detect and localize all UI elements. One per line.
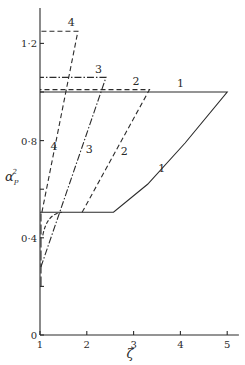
- series-4-label: 4: [51, 140, 58, 153]
- labels-group: 11223344: [51, 16, 184, 175]
- y-axis-title-subscript: P: [13, 179, 19, 187]
- series-4-curve: [43, 212, 62, 235]
- y-axis-title-superscript: 2: [12, 168, 18, 176]
- series-1-label: 1: [158, 162, 165, 175]
- y-tick-label: 0: [31, 330, 37, 341]
- chart: 1234500·40·81·2 11223344 ζ αP2: [0, 0, 245, 365]
- axes: 1234500·40·81·2: [21, 8, 239, 350]
- x-tick-label: 5: [224, 339, 230, 350]
- series-3-label: 3: [95, 63, 102, 76]
- y-tick-label: 0·8: [21, 136, 37, 147]
- series-1-label: 1: [177, 77, 184, 90]
- series-4-line: [40, 31, 78, 212]
- series-1-line: [40, 92, 227, 212]
- series-2-label: 2: [132, 75, 139, 88]
- x-tick-label: 1: [37, 339, 43, 350]
- series-3-label: 3: [86, 143, 93, 156]
- x-axis-title: ζ: [126, 346, 134, 361]
- y-tick-label: 0·4: [21, 233, 37, 244]
- x-tick-label: 4: [177, 339, 183, 350]
- x-tick-label: 2: [84, 339, 90, 350]
- series-group: [40, 31, 227, 286]
- y-axis-title: αP2: [5, 168, 19, 187]
- y-tick-label: 1·2: [21, 38, 37, 49]
- series-2-label: 2: [121, 145, 128, 158]
- series-4-label: 4: [68, 16, 75, 29]
